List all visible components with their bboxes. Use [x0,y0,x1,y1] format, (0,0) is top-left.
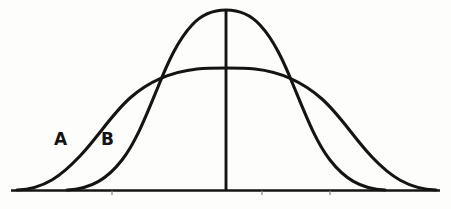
figure-canvas [0,0,451,209]
bell-curve-figure: A B [0,0,451,209]
curve-a-label: A [54,131,67,148]
curve-b-label: B [101,131,114,148]
